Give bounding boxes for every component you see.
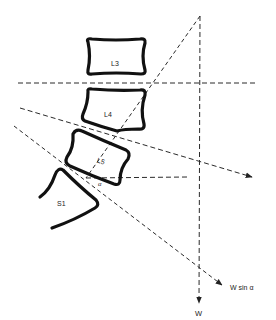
shear-force-line: [14, 126, 222, 285]
l4-l5-disc-line: [20, 108, 252, 177]
label-l4: L4: [104, 111, 112, 118]
weight-force-line: [199, 16, 200, 303]
angle-alpha-label: α: [98, 181, 102, 187]
label-l5: L5: [96, 157, 106, 166]
label-l3: L3: [111, 60, 119, 67]
vertebra-l4: [82, 89, 145, 131]
weight-label: W: [195, 309, 203, 318]
shear-force-label: W sin α: [230, 284, 254, 291]
vertebra-l3: [88, 39, 146, 74]
label-s1: S1: [57, 200, 66, 207]
spine-force-diagram: L3 L4 L5 S1 α W W sin α: [0, 0, 276, 320]
